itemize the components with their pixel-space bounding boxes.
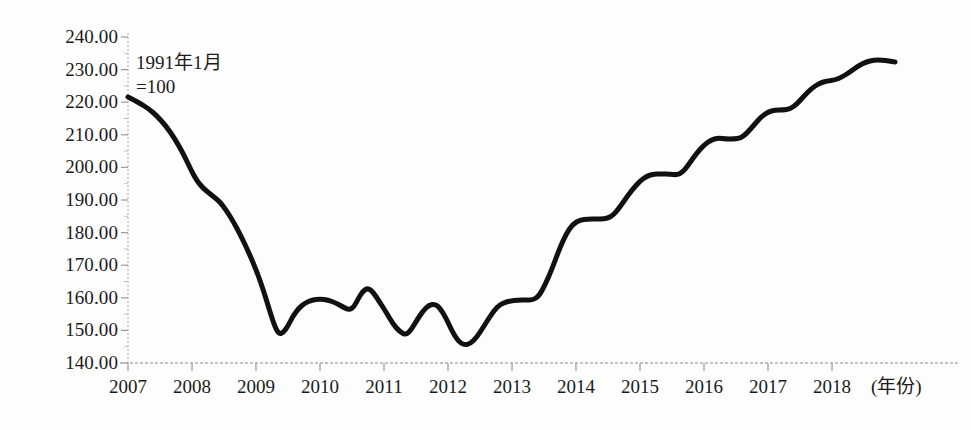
y-axis-tick-label: 150.00 [30, 320, 118, 339]
data-series-line [128, 60, 895, 345]
y-axis [121, 33, 128, 363]
y-axis-tick-label: 220.00 [30, 92, 118, 111]
line-chart-figure: 240.00230.00220.00210.00200.00190.00180.… [0, 0, 971, 430]
annotation-line-1: 1991年1月 [136, 51, 222, 75]
y-axis-tick-label: 180.00 [30, 223, 118, 242]
y-axis-tick-label: 230.00 [30, 60, 118, 79]
y-axis-tick-label: 210.00 [30, 125, 118, 144]
annotation-line-2: =100 [136, 75, 222, 99]
y-axis-tick-label: 140.00 [30, 353, 118, 372]
x-axis-tick-label: 2018 [792, 377, 872, 396]
x-axis-unit-label: (年份) [871, 377, 922, 396]
y-axis-tick-label: 160.00 [30, 288, 118, 307]
y-axis-tick-label: 200.00 [30, 157, 118, 176]
y-axis-tick-label: 190.00 [30, 190, 118, 209]
base-index-annotation: 1991年1月 =100 [136, 51, 222, 99]
x-axis [120, 363, 960, 371]
y-axis-tick-label: 240.00 [30, 27, 118, 46]
y-axis-tick-label: 170.00 [30, 255, 118, 274]
